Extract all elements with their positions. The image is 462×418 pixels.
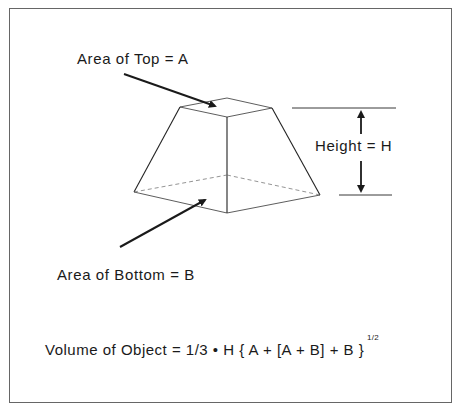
bottom-area-arrow: [120, 200, 205, 247]
height-label: Height = H: [315, 137, 392, 154]
frustum-top-face: [180, 98, 272, 117]
frustum-sides: [134, 107, 320, 213]
volume-formula: Volume of Object = 1/3 • H { A + [A + B]…: [45, 341, 364, 358]
top-area-label: Area of Top = A: [77, 50, 189, 67]
top-area-arrow: [124, 74, 215, 106]
formula-exponent: 1/2: [367, 333, 379, 342]
bottom-area-label: Area of Bottom = B: [57, 266, 195, 283]
